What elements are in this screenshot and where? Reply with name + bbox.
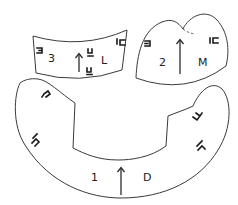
piece-2-number: 2 (159, 56, 166, 69)
pattern-diagram: 3 L 2 M 1 D (0, 0, 238, 205)
pattern-piece-2: 2 M (136, 14, 228, 85)
piece-2-letter: M (198, 56, 208, 69)
piece-1-letter: D (143, 171, 151, 184)
piece-3-number: 3 (48, 52, 55, 65)
notch-mark-icon (145, 41, 150, 46)
piece-1-number: 1 (91, 171, 98, 184)
piece-3-letter: L (101, 54, 108, 67)
pattern-piece-1: 1 D (15, 79, 229, 198)
pattern-piece-3: 3 L (33, 30, 127, 78)
piece-2-outline (136, 14, 228, 85)
